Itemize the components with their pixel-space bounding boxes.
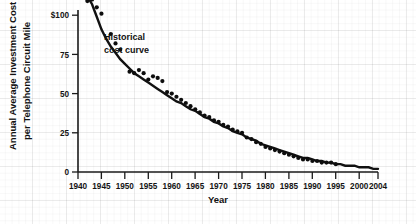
- data-point: [235, 129, 239, 133]
- data-point: [127, 70, 131, 74]
- data-point: [132, 71, 136, 75]
- y-axis-title: Annual Average Investment Cost per Telep…: [7, 1, 32, 150]
- data-point: [334, 162, 338, 166]
- data-point: [146, 77, 150, 81]
- x-tick-label-1970: 1970: [209, 182, 228, 191]
- data-point: [249, 137, 253, 141]
- data-point: [165, 90, 169, 94]
- data-point: [202, 113, 206, 117]
- x-tick-label-1945: 1945: [92, 182, 111, 191]
- x-tick-label-1960: 1960: [163, 182, 182, 191]
- x-tick-label-1980: 1980: [256, 182, 275, 191]
- data-point: [315, 159, 319, 163]
- data-point: [221, 123, 225, 127]
- data-point: [160, 79, 164, 83]
- y-tick-label-50: 50: [60, 90, 70, 99]
- data-point: [254, 140, 258, 144]
- y-tick-label-75: 75: [60, 51, 70, 60]
- data-point: [324, 160, 328, 164]
- data-point: [174, 95, 178, 99]
- data-point: [151, 74, 155, 78]
- y-tick-label-0: 0: [64, 168, 69, 177]
- x-tick-label-1965: 1965: [186, 182, 205, 191]
- data-point: [268, 146, 272, 150]
- x-tick-label-1985: 1985: [280, 182, 299, 191]
- y-tick-label-25: 25: [60, 129, 70, 138]
- data-point: [320, 160, 324, 164]
- annotation-line2: cost curve: [104, 45, 149, 55]
- y-axis-ticks: 0 25 50 75 $100: [51, 11, 78, 177]
- data-point: [137, 68, 141, 72]
- data-point: [142, 71, 146, 75]
- x-tick-label-1990: 1990: [303, 182, 322, 191]
- y-tick-label-100: $100: [51, 11, 70, 20]
- data-point: [329, 160, 333, 164]
- historical-cost-curve-annotation: Historical cost curve: [104, 32, 149, 55]
- y-axis-title-line1: Annual Average Investment Cost: [7, 1, 18, 150]
- x-axis-title: Year: [208, 194, 228, 205]
- data-point: [287, 153, 291, 157]
- data-point: [240, 131, 244, 135]
- data-point: [179, 98, 183, 102]
- cost-curve-chart: Annual Average Investment Cost per Telep…: [0, 0, 416, 224]
- x-tick-label-1940: 1940: [69, 182, 88, 191]
- data-point: [212, 118, 216, 122]
- data-point: [217, 120, 221, 124]
- x-tick-label-1975: 1975: [233, 182, 252, 191]
- data-point: [193, 107, 197, 111]
- x-tick-label-1995: 1995: [327, 182, 346, 191]
- data-point: [85, 0, 89, 3]
- data-point: [99, 12, 103, 16]
- data-point: [282, 151, 286, 155]
- data-point: [273, 148, 277, 152]
- data-point: [95, 5, 99, 9]
- x-tick-label-2000: 2000: [350, 182, 369, 191]
- y-axis-title-line2: per Telephone Circuit Mile: [21, 22, 32, 140]
- data-point: [306, 157, 310, 161]
- x-tick-label-2004: 2004: [369, 182, 388, 191]
- historical-cost-curve: [87, 0, 378, 169]
- x-tick-label-1950: 1950: [116, 182, 135, 191]
- annotation-line1: Historical: [104, 32, 145, 42]
- data-point: [245, 135, 249, 139]
- x-tick-label-1955: 1955: [139, 182, 158, 191]
- data-point: [296, 156, 300, 160]
- data-point: [231, 128, 235, 132]
- data-point: [301, 157, 305, 161]
- data-point: [207, 115, 211, 119]
- data-point: [156, 76, 160, 80]
- data-point: [277, 150, 281, 154]
- data-point: [184, 101, 188, 105]
- data-point: [310, 159, 314, 163]
- data-point: [292, 154, 296, 158]
- data-point-group: [85, 0, 338, 166]
- data-point: [259, 142, 263, 146]
- data-point: [170, 92, 174, 96]
- data-point: [188, 104, 192, 108]
- x-axis-ticks: 1940 1945 1950 1955 1960 1965 1970 1975 …: [69, 172, 388, 191]
- data-point: [198, 110, 202, 114]
- data-point: [263, 145, 267, 149]
- data-point: [226, 124, 230, 128]
